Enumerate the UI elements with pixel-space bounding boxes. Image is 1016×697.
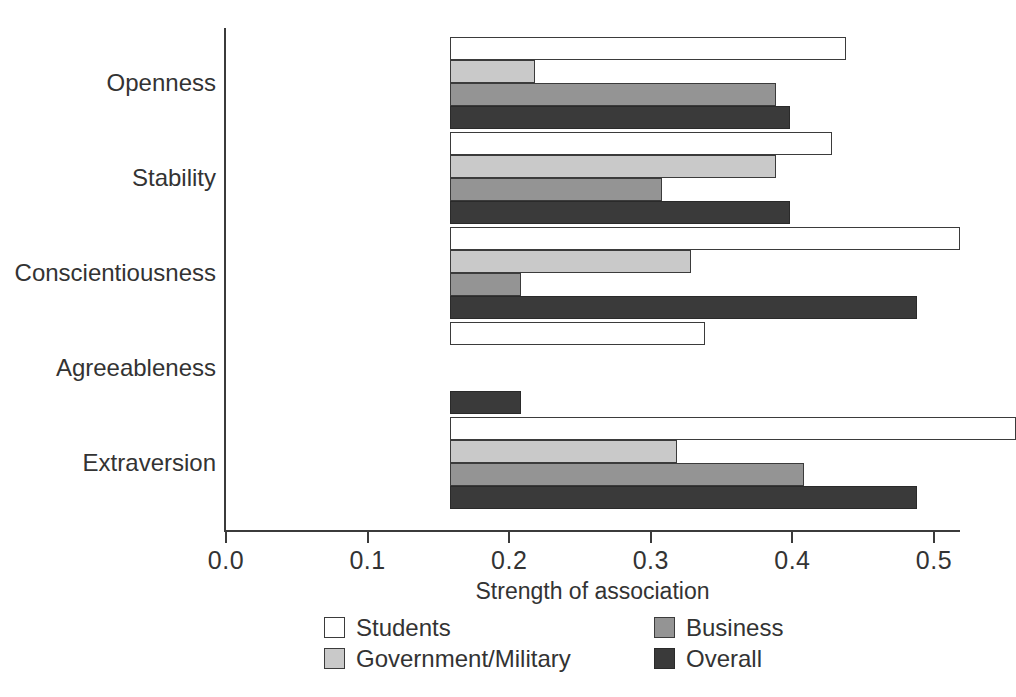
bar-overall-agreeableness: [450, 391, 521, 414]
category-label-conscientiousness: Conscientiousness: [0, 259, 216, 287]
x-tick-label-0.1: 0.1: [328, 546, 408, 575]
x-tick-label-0.0: 0.0: [186, 546, 266, 575]
x-tick-0.0: [225, 532, 227, 543]
category-axis-labels: OpennessStabilityConscientiousnessAgreea…: [0, 0, 216, 697]
legend-item-overall[interactable]: Overall: [654, 643, 884, 674]
bar-government-stability: [450, 155, 776, 178]
x-axis-line: [224, 530, 960, 532]
bar-students-stability: [450, 132, 832, 155]
x-tick-0.1: [367, 532, 369, 543]
legend-row-bottom: Government/Military Overall: [324, 643, 884, 674]
category-label-agreeableness: Agreeableness: [0, 354, 216, 382]
bar-business-stability: [450, 178, 662, 201]
bar-government-conscientiousness: [450, 250, 691, 273]
legend-label-overall: Overall: [686, 647, 762, 671]
legend-item-government-military[interactable]: Government/Military: [324, 643, 654, 674]
bar-overall-stability: [450, 201, 790, 224]
legend-swatch-students-icon: [324, 617, 345, 638]
x-tick-0.3: [650, 532, 652, 543]
category-label-openness: Openness: [0, 69, 216, 97]
x-tick-0.4: [791, 532, 793, 543]
bar-business-conscientiousness: [450, 273, 521, 296]
category-label-extraversion: Extraversion: [0, 449, 216, 477]
bar-students-openness: [450, 37, 846, 60]
y-axis-line: [224, 28, 226, 531]
x-axis-title: Strength of association: [225, 578, 960, 605]
bar-business-openness: [450, 83, 776, 106]
bar-overall-openness: [450, 106, 790, 129]
bar-overall-extraversion: [450, 486, 917, 509]
x-tick-label-0.5: 0.5: [894, 546, 974, 575]
x-tick-label-0.4: 0.4: [752, 546, 832, 575]
bar-government-extraversion: [450, 440, 677, 463]
legend-label-government-military: Government/Military: [356, 647, 571, 671]
x-tick-label-0.2: 0.2: [469, 546, 549, 575]
bar-business-extraversion: [450, 463, 804, 486]
legend-item-students[interactable]: Students: [324, 612, 654, 643]
x-tick-label-0.3: 0.3: [611, 546, 691, 575]
legend: Students Business Government/Military Ov…: [324, 612, 884, 682]
x-tick-0.2: [508, 532, 510, 543]
legend-label-business: Business: [686, 616, 783, 640]
bar-overall-conscientiousness: [450, 296, 917, 319]
plot-area: [225, 28, 960, 531]
legend-label-students: Students: [356, 616, 451, 640]
legend-row-top: Students Business: [324, 612, 884, 643]
category-label-stability: Stability: [0, 164, 216, 192]
bar-students-conscientiousness: [450, 227, 960, 250]
legend-swatch-business-icon: [654, 617, 675, 638]
x-tick-0.5: [933, 532, 935, 543]
legend-swatch-overall-icon: [654, 648, 675, 669]
legend-swatch-government-military-icon: [324, 648, 345, 669]
legend-item-business[interactable]: Business: [654, 612, 884, 643]
bar-students-extraversion: [450, 417, 1016, 440]
bar-students-agreeableness: [450, 322, 705, 345]
bar-government-openness: [450, 60, 535, 83]
